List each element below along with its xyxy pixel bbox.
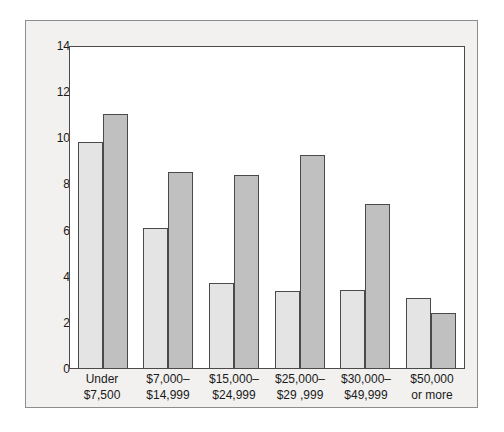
x-axis-label: $30,000– $49,999 xyxy=(333,371,399,403)
bar-black[interactable] xyxy=(300,155,325,368)
bar-group xyxy=(340,47,390,368)
bar-group xyxy=(78,47,128,368)
bar-black[interactable] xyxy=(431,313,456,368)
x-axis-label: $25,000– $29 ,999 xyxy=(267,371,333,403)
bars-layer xyxy=(70,47,464,368)
bar-black[interactable] xyxy=(168,172,193,368)
bar-group xyxy=(406,47,456,368)
bar-black[interactable] xyxy=(365,204,390,368)
bar-white[interactable] xyxy=(275,291,300,368)
bar-white[interactable] xyxy=(406,298,431,368)
y-tick-label: 12 xyxy=(57,86,70,98)
figure-frame: White Black 02468101214 Under $7,500$7,0… xyxy=(25,20,478,408)
bar-white[interactable] xyxy=(143,228,168,368)
x-axis-label: Under $7,500 xyxy=(69,371,135,403)
bar-group xyxy=(209,47,259,368)
bar-black[interactable] xyxy=(234,175,259,368)
bar-black[interactable] xyxy=(103,114,128,368)
bar-white[interactable] xyxy=(340,290,365,368)
x-axis-label: $7,000– $14,999 xyxy=(135,371,201,403)
x-axis-label: $15,000– $24,999 xyxy=(201,371,267,403)
bar-group xyxy=(275,47,325,368)
x-axis-label: $50,000 or more xyxy=(399,371,465,403)
y-tick-label: 10 xyxy=(57,132,70,144)
x-axis-labels: Under $7,500$7,000– $14,999$15,000– $24,… xyxy=(69,371,465,403)
bar-white[interactable] xyxy=(78,142,103,368)
bar-group xyxy=(143,47,193,368)
plot-area xyxy=(69,46,465,369)
y-tick-label: 14 xyxy=(57,40,70,52)
bar-white[interactable] xyxy=(209,283,234,368)
